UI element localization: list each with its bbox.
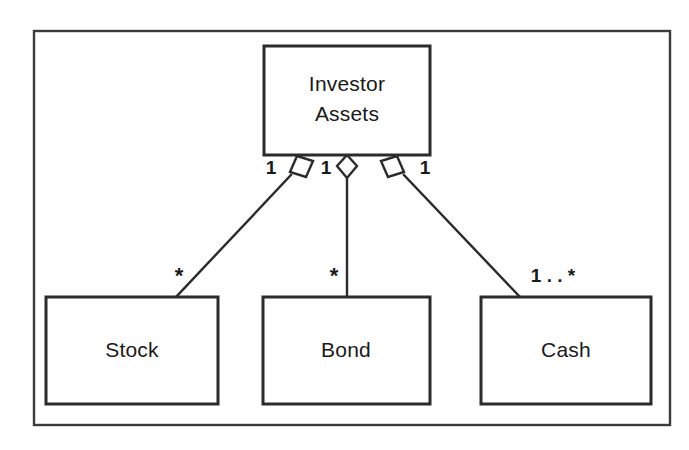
class-label-investor-assets-line2: Assets [315, 102, 379, 125]
multiplicity-assets-bond: 1 [321, 157, 332, 178]
uml-diagram-svg: Investor Assets Stock Bond Cash 1 1 1 * … [0, 0, 689, 450]
multiplicity-stock-end: * [175, 263, 184, 288]
class-box-investor-assets[interactable] [264, 46, 430, 155]
class-label-stock: Stock [105, 338, 159, 361]
multiplicity-assets-stock: 1 [266, 157, 277, 178]
multiplicity-cash-end: 1 . . * [531, 265, 576, 286]
multiplicity-bond-end: * [330, 263, 339, 288]
association-line-stock[interactable] [176, 175, 291, 297]
uml-diagram-canvas: Investor Assets Stock Bond Cash 1 1 1 * … [0, 0, 689, 450]
class-label-cash: Cash [541, 338, 591, 361]
aggregation-diamond-stock[interactable] [290, 156, 313, 177]
class-label-bond: Bond [321, 338, 371, 361]
multiplicity-assets-cash: 1 [420, 157, 431, 178]
aggregation-diamond-bond[interactable] [337, 155, 357, 178]
association-line-cash[interactable] [404, 175, 520, 297]
class-label-investor-assets-line1: Investor [309, 72, 385, 95]
aggregation-diamond-cash[interactable] [381, 156, 404, 177]
